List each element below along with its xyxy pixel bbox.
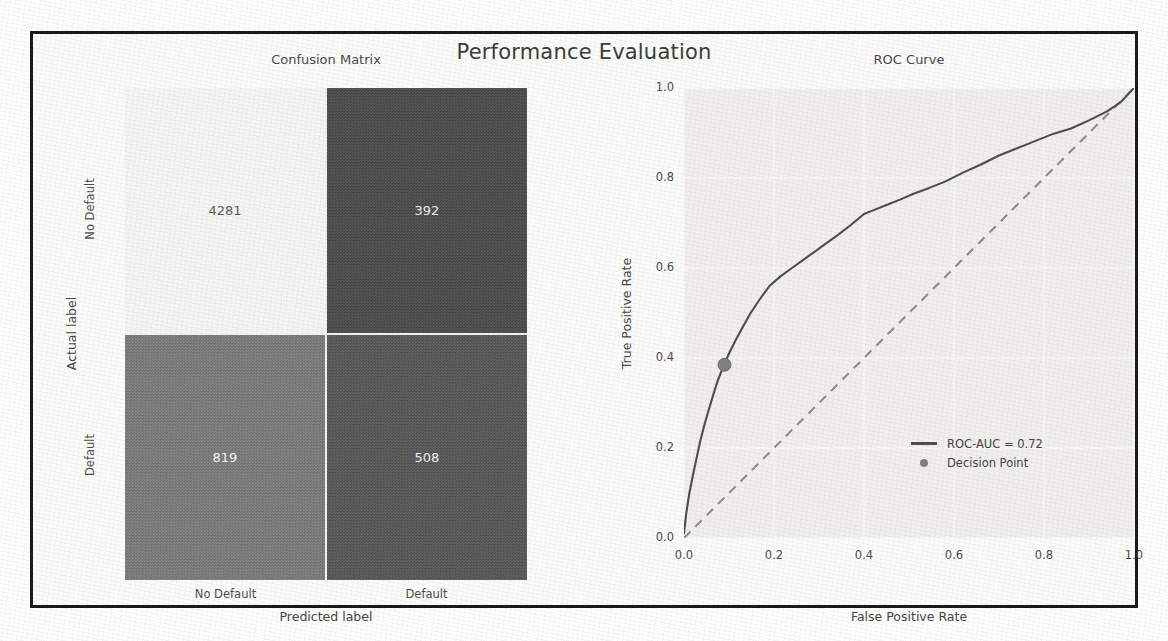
roc-curve-line (684, 88, 1134, 534)
roc-ytick-4: 0.8 (640, 170, 674, 184)
roc-ytick-2: 0.4 (640, 350, 674, 364)
legend-item-decision-point: Decision Point (910, 453, 1043, 472)
roc-xtick-2: 0.4 (824, 548, 904, 562)
roc-xtick-3: 0.6 (914, 548, 994, 562)
cell-value: 819 (213, 450, 238, 465)
roc-ytick-5: 1.0 (640, 80, 674, 94)
cell-value: 4281 (208, 203, 241, 218)
roc-plot-area (684, 88, 1134, 538)
confusion-matrix-ylabel: Actual label (64, 274, 79, 394)
confusion-matrix-xlabel: Predicted label (125, 609, 527, 624)
confusion-matrix-xtick-0: No Default (125, 587, 326, 601)
confusion-matrix-cell-true-positive[interactable]: 508 (327, 335, 527, 580)
legend-label-decision-point: Decision Point (947, 456, 1028, 470)
cell-value: 392 (415, 203, 440, 218)
dot-swatch-icon (910, 459, 938, 467)
line-swatch-icon (910, 442, 938, 444)
roc-panel: ROC Curve True Positive Rate 0.00.20.40.… (588, 34, 1135, 605)
confusion-matrix-ytick-1: Default (83, 423, 97, 487)
roc-ytick-3: 0.6 (640, 260, 674, 274)
confusion-matrix-xtick-1: Default (326, 587, 527, 601)
roc-curve-svg (684, 88, 1134, 538)
roc-xlabel: False Positive Rate (684, 609, 1134, 624)
cell-value: 508 (415, 450, 440, 465)
roc-ylabel: True Positive Rate (619, 239, 634, 389)
scanned-page: Performance Evaluation Confusion Matrix … (0, 0, 1168, 641)
roc-legend: ROC-AUC = 0.72 Decision Point (910, 434, 1043, 472)
legend-label-roc-auc: ROC-AUC = 0.72 (947, 437, 1043, 451)
confusion-matrix-cell-true-negative[interactable]: 4281 (125, 88, 325, 333)
confusion-matrix-cell-false-positive[interactable]: 392 (327, 88, 527, 333)
roc-ytick-1: 0.2 (640, 440, 674, 454)
legend-item-roc-auc: ROC-AUC = 0.72 (910, 434, 1043, 453)
decision-point-marker[interactable] (718, 358, 731, 371)
roc-xtick-1: 0.2 (734, 548, 814, 562)
roc-title: ROC Curve (684, 52, 1134, 67)
roc-ytick-0: 0.0 (640, 530, 674, 544)
confusion-matrix-cell-false-negative[interactable]: 819 (125, 335, 325, 580)
roc-xtick-5: 1.0 (1094, 548, 1168, 562)
roc-xtick-4: 0.8 (1004, 548, 1084, 562)
figure-frame: Performance Evaluation Confusion Matrix … (30, 31, 1138, 608)
confusion-matrix-panel: Confusion Matrix Actual label No Default… (33, 34, 588, 605)
roc-xtick-0: 0.0 (644, 548, 724, 562)
confusion-matrix-grid: 4281 392 819 508 (125, 88, 527, 580)
confusion-matrix-title: Confusion Matrix (125, 52, 527, 67)
confusion-matrix-ytick-0: No Default (83, 164, 97, 254)
